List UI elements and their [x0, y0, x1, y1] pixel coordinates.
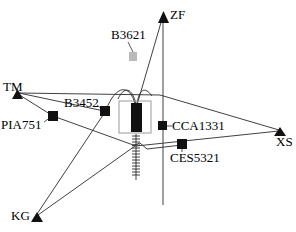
square-icon-ces5321[interactable] — [177, 139, 187, 149]
edge-tm-pia751 — [18, 94, 53, 116]
node-label-b3621: B3621 — [111, 28, 146, 41]
edge-curve-left-inner — [118, 90, 136, 104]
edge-b3452-kg — [37, 112, 105, 214]
edge-curve-left-outer — [106, 90, 135, 110]
thick-bar-icon-center[interactable] — [131, 103, 142, 132]
node-label-ces5321: CES5321 — [170, 151, 220, 164]
edge-group-curved — [106, 90, 152, 110]
node-label-b3452: B3452 — [64, 96, 99, 109]
node-label-zf: ZF — [170, 8, 185, 21]
edge-pia751-xs — [53, 116, 279, 146]
leader-line-b3621 — [128, 42, 133, 52]
node-label-pia751: PIA751 — [1, 118, 41, 131]
node-label-tm: TM — [3, 80, 23, 93]
diagram-canvas: TM PIA751 B3452 B3621 ZF CCA1331 CES5321… — [0, 0, 296, 232]
square-icon-b3621[interactable] — [129, 52, 137, 61]
square-icon-b3452[interactable] — [100, 106, 110, 116]
triangle-icon-kg[interactable] — [31, 212, 43, 222]
node-label-cca1331: CCA1331 — [172, 119, 225, 132]
triangle-icon-zf[interactable] — [158, 11, 169, 23]
node-label-xs: XS — [276, 135, 293, 148]
diagram-graphics — [0, 0, 296, 232]
ground-hatch-icon — [132, 134, 140, 180]
square-icon-pia751[interactable] — [48, 111, 58, 121]
node-label-kg: KG — [11, 209, 30, 222]
edge-center-kg — [38, 146, 135, 215]
square-icon-cca1331[interactable] — [158, 121, 167, 130]
